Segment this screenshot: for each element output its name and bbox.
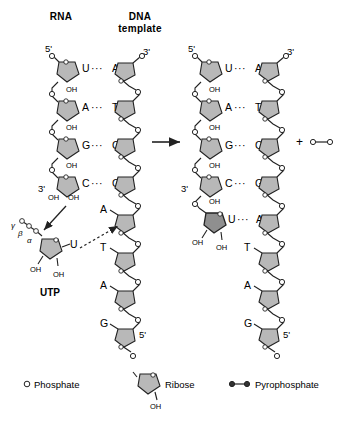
legend: Phosphate OH Ribose Pyrophosphate <box>24 372 319 411</box>
left-rna-oh-3: OH <box>66 161 77 170</box>
right-unpaired-base-1: A <box>244 279 251 291</box>
utp-gamma-label: γ <box>11 221 16 230</box>
ribose-pentagon-icon <box>138 374 160 394</box>
right-rna-base-4: U <box>228 213 236 225</box>
phosphate-circle-icon <box>24 381 30 387</box>
left-bond-0: ··· <box>91 62 103 74</box>
utp-oh-1: OH <box>30 265 41 274</box>
transcription-diagram: RNA DNA template 5' 3' <box>0 0 343 425</box>
utp-base: U <box>70 238 78 250</box>
left-bond-1: ··· <box>91 101 103 113</box>
right-structure: 5' 3' <box>181 43 294 359</box>
right-rna-base-2: G <box>225 139 233 151</box>
right-rna-base-1: A <box>225 101 232 113</box>
left-structure: 5' 3' <box>38 43 150 359</box>
legend-label-phosphate: Phosphate <box>34 379 79 390</box>
left-rna-base-2: G <box>82 139 90 151</box>
left-unpaired-base-1: T <box>100 241 107 253</box>
plus-sign: + <box>296 135 303 149</box>
right-rna-oh-1: OH <box>209 85 220 94</box>
left-rna-3prime: 3' <box>38 183 45 194</box>
right-dna-riboses <box>259 63 279 347</box>
right-rna-base-0: U <box>225 62 233 74</box>
left-bond-3: ··· <box>91 177 103 189</box>
utp-ribose <box>40 239 62 259</box>
header-rna: RNA <box>50 11 73 22</box>
right-dna-5prime: 5' <box>283 329 290 340</box>
left-rna-terminal-oh-2: OH <box>68 193 79 202</box>
right-base-pairs: U ··· A A ··· T G ··· C C ··· G U ··· A <box>225 62 263 225</box>
right-bond-4: ··· <box>237 213 249 225</box>
pairing-arrow <box>80 226 118 248</box>
left-rna-base-1: A <box>82 101 89 113</box>
pyrophosphate-icon <box>229 381 249 386</box>
left-rna-base-0: U <box>82 62 90 74</box>
left-rna-5prime: 5' <box>45 43 52 54</box>
right-rna-3prime: 3' <box>181 183 188 194</box>
ribose-oh-link-icon <box>155 392 157 400</box>
right-bond-2: ··· <box>234 139 246 151</box>
right-rna-base-3: C <box>225 177 233 189</box>
right-terminal-oh-2: OH <box>216 243 227 252</box>
utp-label: UTP <box>40 287 60 298</box>
legend-ribose-oh: OH <box>150 402 161 411</box>
attack-arrow <box>44 206 66 230</box>
new-nucleotide-ribose <box>204 213 226 233</box>
left-unpaired-base-2: A <box>100 279 107 291</box>
right-bond-3: ··· <box>234 177 246 189</box>
utp-base-link <box>62 244 70 247</box>
pyrophosphate-product <box>310 139 332 144</box>
right-unpaired-base-0: T <box>244 241 251 253</box>
left-unpaired-base-3: G <box>100 317 108 329</box>
right-bond-0: ··· <box>234 62 246 74</box>
right-rna-oh-2: OH <box>209 123 220 132</box>
ribose-ring-oxygen-icon <box>151 373 155 377</box>
legend-label-pyrophosphate: Pyrophosphate <box>255 379 319 390</box>
header-dna-line1: DNA <box>129 11 152 22</box>
left-bond-2: ··· <box>91 139 103 151</box>
right-terminal-oh-1: OH <box>192 238 203 247</box>
header-dna-line2: template <box>118 23 162 34</box>
right-rna-oh-4: OH <box>209 197 220 206</box>
right-dna-phosphates <box>263 53 289 358</box>
left-rna-oh-2: OH <box>66 123 77 132</box>
utp-ring-oxygen-icon <box>54 238 58 242</box>
right-rna-oh-3: OH <box>209 161 220 170</box>
utp-alpha-label: α <box>27 236 32 245</box>
right-bond-1: ··· <box>234 101 246 113</box>
left-base-pairs: U ··· A A ··· T G ··· C C ··· G <box>82 62 120 189</box>
right-unpaired-base-2: G <box>244 317 252 329</box>
left-rna-base-3: C <box>82 177 90 189</box>
left-rna-terminal-oh-1: OH <box>48 193 59 202</box>
utp-molecule: γ β α U OH OH UTP <box>11 219 78 298</box>
diagram-canvas: RNA DNA template 5' 3' <box>0 0 343 425</box>
left-dna-5prime: 5' <box>139 329 146 340</box>
left-unpaired-base-0: A <box>100 203 107 215</box>
ribose-bond-icon <box>133 372 137 377</box>
right-rna-5prime: 5' <box>188 43 195 54</box>
utp-oh-2: OH <box>53 270 64 279</box>
utp-beta-label: β <box>17 229 23 238</box>
left-dna-phosphates <box>119 53 145 358</box>
legend-label-ribose: Ribose <box>165 379 195 390</box>
left-dna-riboses <box>115 63 135 347</box>
left-rna-oh-1: OH <box>66 85 77 94</box>
utp-phosphate-chain <box>20 219 42 236</box>
